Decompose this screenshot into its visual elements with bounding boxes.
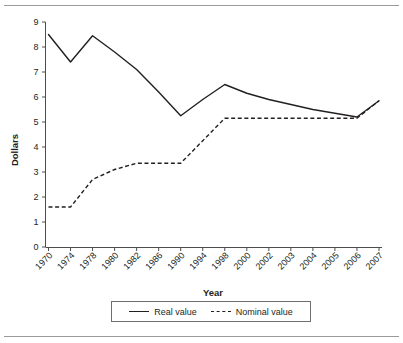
y-tick-marks [42, 22, 46, 247]
x-tick-label: 2007 [364, 250, 385, 271]
x-tick-label: 2006 [342, 250, 363, 271]
x-tick-label: 2003 [276, 250, 297, 271]
legend-swatch-solid-line-icon [129, 311, 149, 312]
y-axis: 0123456789 Dollars [9, 17, 46, 252]
y-tick-label: 7 [33, 67, 38, 77]
figure-container: 0123456789 Dollars 197019741978198019821… [0, 0, 403, 343]
y-tick-label: 0 [33, 242, 38, 252]
y-tick-label: 2 [33, 192, 38, 202]
y-tick-label: 3 [33, 167, 38, 177]
x-tick-label: 1982 [121, 250, 142, 271]
x-tick-label: 1978 [77, 250, 98, 271]
x-tick-label: 1970 [33, 250, 54, 271]
x-tick-label: 2000 [231, 250, 252, 271]
y-tick-label: 9 [33, 17, 38, 27]
line-chart-plot: 0123456789 Dollars 197019741978198019821… [0, 0, 403, 343]
x-tick-label: 2002 [254, 250, 275, 271]
y-tick-label: 5 [33, 117, 38, 127]
y-tick-label: 8 [33, 42, 38, 52]
legend-label-real-value: Real value [154, 307, 197, 317]
legend-swatch-dashed-line-icon [211, 311, 231, 312]
data-series-group [49, 35, 380, 208]
legend-entry-nominal-value: Nominal value [211, 307, 293, 317]
x-axis: 1970197419781980198219861990199419982000… [33, 247, 385, 298]
series-line-real-value [49, 35, 380, 118]
x-tick-label: 2004 [298, 250, 319, 271]
series-line-nominal-value [49, 101, 380, 207]
x-tick-label: 1986 [143, 250, 164, 271]
legend-label-nominal-value: Nominal value [236, 307, 293, 317]
chart-legend: Real value Nominal value [111, 301, 311, 322]
y-tick-labels: 0123456789 [33, 17, 38, 252]
x-tick-label: 1980 [99, 250, 120, 271]
y-tick-label: 6 [33, 92, 38, 102]
x-tick-label: 1998 [209, 250, 230, 271]
x-tick-label: 1974 [55, 250, 76, 271]
y-axis-title: Dollars [9, 134, 20, 166]
x-tick-labels: 1970197419781980198219861990199419982000… [33, 250, 385, 271]
x-axis-title: Year [203, 287, 223, 298]
x-tick-label: 1994 [187, 250, 208, 271]
y-tick-label: 4 [33, 142, 38, 152]
x-tick-label: 2005 [320, 250, 341, 271]
legend-entry-real-value: Real value [129, 307, 197, 317]
x-tick-label: 1990 [165, 250, 186, 271]
y-tick-label: 1 [33, 217, 38, 227]
